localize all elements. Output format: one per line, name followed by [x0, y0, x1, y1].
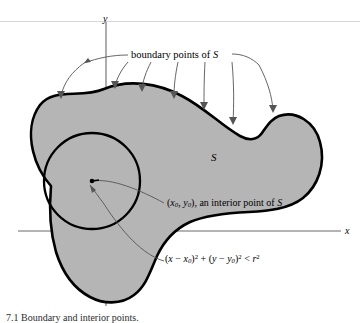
boundary-leader-arrowhead-left [84, 58, 91, 63]
leader-tick-interior-point [92, 180, 99, 181]
boundary-arrowhead-7 [269, 105, 277, 113]
ineq-relation: < [242, 253, 253, 264]
figure-container: y x S boundary points of S (x0, y0), an … [0, 0, 360, 323]
boundary-arrowhead-6 [229, 117, 237, 125]
boundary-arrow-4 [174, 62, 178, 96]
boundary-label-set: S [213, 49, 218, 60]
x-axis-label: x [345, 226, 349, 236]
interior-set-S: S [277, 197, 282, 208]
interior-close-text: ), an interior point of [191, 197, 277, 208]
boundary-label-text: boundary points of [131, 49, 213, 60]
ineq-plus: + [198, 253, 209, 264]
figure-caption: 7.1 Boundary and interior points. [6, 312, 139, 323]
region-S-shape [31, 83, 322, 302]
inequality-label: (x − x0)2 + (y − y0)2 < r2 [165, 254, 260, 265]
boundary-arrow-7 [259, 65, 273, 110]
boundary-arrow-6 [232, 62, 234, 122]
ineq-minus-1: − [173, 253, 184, 264]
boundary-label-leader-right [232, 54, 259, 65]
region-label-S: S [211, 152, 217, 163]
boundary-arrow-5 [204, 62, 205, 107]
boundary-points-label: boundary points of S [131, 50, 218, 61]
ineq-minus-2: − [216, 253, 227, 264]
interior-point-label: (x0, y0), an interior point of S [167, 198, 282, 209]
ineq-sq-3: 2 [256, 253, 259, 260]
y-axis-label: y [103, 14, 107, 24]
